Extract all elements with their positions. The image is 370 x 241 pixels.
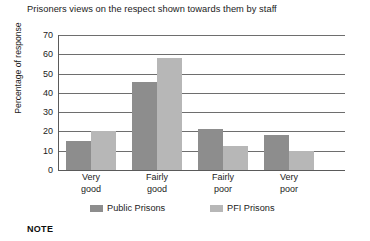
x-axis-tick-label: Fairlypoor bbox=[186, 172, 260, 195]
note-label: NOTE bbox=[27, 224, 53, 234]
bar-group bbox=[132, 35, 182, 170]
bar-group bbox=[198, 35, 248, 170]
y-axis-tick-label: 70 bbox=[43, 30, 53, 40]
y-axis-title: Percentage of response bbox=[13, 8, 23, 128]
bar bbox=[289, 151, 314, 170]
x-axis-tick-label: Fairlygood bbox=[120, 172, 194, 195]
bar-group bbox=[66, 35, 116, 170]
y-axis-tick-label: 60 bbox=[43, 49, 53, 59]
y-axis-tick-label: 20 bbox=[43, 126, 53, 136]
y-axis-tick-label: 50 bbox=[43, 69, 53, 79]
legend-swatch-icon bbox=[210, 205, 223, 212]
bar-group bbox=[264, 35, 314, 170]
legend-item: Public Prisons bbox=[90, 203, 165, 213]
bar bbox=[223, 146, 248, 170]
legend-item: PFI Prisons bbox=[210, 203, 274, 213]
y-axis-tick-label: 30 bbox=[43, 107, 53, 117]
plot-area: 010203040506070 VerygoodFairlygoodFairly… bbox=[58, 35, 345, 170]
bar bbox=[91, 131, 116, 170]
legend-swatch-icon bbox=[90, 205, 103, 212]
y-axis-tick-label: 10 bbox=[43, 146, 53, 156]
bar bbox=[264, 135, 289, 170]
bar bbox=[66, 141, 91, 170]
bar-series-container bbox=[58, 35, 345, 170]
chart-title: Prisoners views on the respect shown tow… bbox=[27, 4, 277, 14]
y-axis-tick-label: 0 bbox=[48, 165, 53, 175]
x-axis-tick-label: Verygood bbox=[54, 172, 128, 195]
x-axis-tick-label: Verypoor bbox=[252, 172, 326, 195]
legend-label: PFI Prisons bbox=[227, 203, 274, 213]
y-axis-tick-label: 40 bbox=[43, 88, 53, 98]
bar-chart-figure: Prisoners views on the respect shown tow… bbox=[0, 0, 370, 241]
chart-legend: Public PrisonsPFI Prisons bbox=[58, 203, 345, 215]
bar bbox=[198, 129, 223, 170]
bar bbox=[157, 58, 182, 170]
bar bbox=[132, 82, 157, 170]
gridline bbox=[58, 170, 345, 171]
legend-label: Public Prisons bbox=[107, 203, 165, 213]
